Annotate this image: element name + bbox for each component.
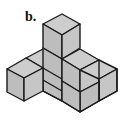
cube-structure-diagram [0,0,127,125]
cube-left [7,58,43,101]
